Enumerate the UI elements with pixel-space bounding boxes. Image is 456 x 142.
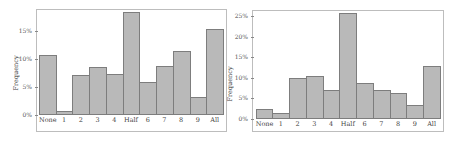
bar-7: [156, 66, 174, 115]
bar-8: [173, 51, 191, 115]
y-tick-label: 15%: [226, 54, 248, 60]
y-tick-mark: [35, 87, 38, 88]
y-tick-label: 5%: [226, 95, 248, 101]
x-tick-label: 8: [390, 121, 407, 128]
y-tick-label: 0%: [10, 112, 32, 118]
x-tick-label: 8: [173, 117, 190, 124]
bar-9: [406, 105, 424, 119]
bar-none: [39, 55, 57, 115]
bar-none: [256, 109, 274, 119]
x-tick-label: All: [206, 117, 223, 124]
y-tick-mark: [35, 115, 38, 116]
bar-6: [356, 83, 374, 119]
x-tick-label: 7: [156, 117, 173, 124]
bar-4: [323, 90, 341, 119]
bar-1: [272, 113, 290, 119]
y-tick-mark: [251, 98, 254, 99]
x-tick-label: 2: [289, 121, 306, 128]
histogram-left: Frequency None1234Half6789All0%5%10%15%: [0, 0, 228, 142]
x-tick-label: 7: [373, 121, 390, 128]
y-tick-mark: [35, 31, 38, 32]
x-tick-label: 4: [323, 121, 340, 128]
x-tick-label: 1: [272, 121, 289, 128]
x-tick-label: 3: [89, 117, 106, 124]
bar-all: [423, 66, 441, 119]
bar-3: [89, 67, 107, 115]
x-tick-label: Half: [123, 117, 140, 124]
y-tick-label: 20%: [226, 34, 248, 40]
bar-7: [373, 90, 391, 119]
x-tick-label: None: [256, 121, 273, 128]
bar-4: [106, 74, 124, 115]
bar-2: [289, 78, 307, 119]
y-tick-mark: [251, 16, 254, 17]
y-tick-mark: [35, 59, 38, 60]
y-tick-label: 15%: [10, 28, 32, 34]
histogram-right: Frequency None1234Half6789All0%5%10%15%2…: [228, 0, 456, 142]
y-tick-label: 10%: [226, 75, 248, 81]
y-tick-label: 25%: [226, 13, 248, 19]
bar-all: [206, 29, 224, 115]
y-tick-label: 5%: [10, 84, 32, 90]
bar-1: [56, 111, 74, 115]
y-tick-mark: [251, 37, 254, 38]
x-tick-label: 6: [356, 121, 373, 128]
x-tick-label: 6: [139, 117, 156, 124]
bar-3: [306, 76, 324, 119]
x-tick-label: All: [423, 121, 440, 128]
y-tick-mark: [251, 119, 254, 120]
x-tick-label: 9: [406, 121, 423, 128]
bar-8: [390, 93, 408, 119]
x-tick-label: 1: [56, 117, 73, 124]
x-tick-label: 2: [72, 117, 89, 124]
x-tick-label: 3: [306, 121, 323, 128]
y-tick-mark: [251, 57, 254, 58]
x-tick-label: None: [39, 117, 56, 124]
bar-half: [339, 13, 357, 119]
y-tick-mark: [251, 78, 254, 79]
bar-half: [123, 12, 141, 115]
x-tick-label: Half: [339, 121, 356, 128]
x-tick-label: 9: [190, 117, 207, 124]
y-tick-label: 0%: [226, 116, 248, 122]
bar-6: [139, 82, 157, 115]
bar-9: [190, 97, 208, 115]
x-tick-label: 4: [106, 117, 123, 124]
y-tick-label: 10%: [10, 56, 32, 62]
bar-2: [72, 75, 90, 115]
